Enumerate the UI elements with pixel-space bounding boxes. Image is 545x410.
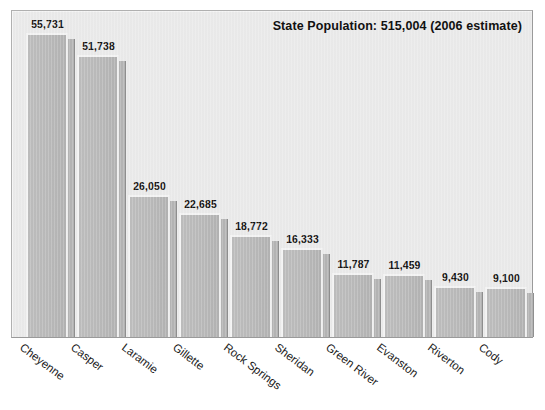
- x-axis-label-gillette: Gillette: [171, 341, 207, 372]
- x-axis-label-cheyenne: Cheyenne: [18, 341, 67, 382]
- bar-chart-screenshot: { "chart_data": { "type": "bar", "title"…: [0, 0, 545, 410]
- bar-value-label: 26,050: [124, 180, 175, 192]
- chart-title: State Population: 515,004 (2006 estimate…: [273, 19, 522, 33]
- bar[interactable]: [434, 286, 476, 337]
- bar[interactable]: [26, 33, 68, 337]
- bar-group: 9,100: [481, 265, 532, 337]
- bar[interactable]: [77, 55, 119, 337]
- x-axis-category-labels: CheyenneCasperLaramieGilletteRock Spring…: [11, 341, 533, 410]
- bar-group: 26,050: [124, 173, 175, 337]
- bar-value-label: 9,430: [430, 271, 481, 283]
- bar[interactable]: [383, 274, 425, 337]
- bar-group: 9,430: [430, 264, 481, 337]
- plot-area: 55,73151,73826,05022,68518,77216,33311,7…: [12, 11, 532, 337]
- bar-group: 18,772: [226, 213, 277, 337]
- x-axis-label-laramie: Laramie: [120, 341, 160, 376]
- bar-value-label: 51,738: [73, 40, 124, 52]
- bar[interactable]: [332, 273, 374, 337]
- bar-value-label: 9,100: [481, 272, 532, 284]
- bar[interactable]: [485, 287, 527, 337]
- x-axis-label-riverton: Riverton: [426, 341, 467, 376]
- x-axis-label-evanston: Evanston: [375, 341, 421, 379]
- bar[interactable]: [128, 195, 170, 337]
- bar-value-label: 55,731: [22, 18, 73, 30]
- x-axis-label-casper: Casper: [69, 341, 106, 373]
- x-axis-label-sheridan: Sheridan: [273, 341, 317, 378]
- bar-value-label: 22,685: [175, 198, 226, 210]
- bar-group: 11,459: [379, 252, 430, 337]
- x-axis-label-green-river: Green River: [324, 341, 381, 388]
- bar-value-label: 11,459: [379, 259, 430, 271]
- bar-group: 55,731: [22, 11, 73, 337]
- bar-value-label: 11,787: [328, 258, 379, 270]
- bar-group: 16,333: [277, 226, 328, 337]
- bar-value-label: 18,772: [226, 220, 277, 232]
- bar-value-label: 16,333: [277, 233, 328, 245]
- x-axis-label-cody: Cody: [477, 341, 506, 367]
- chart-plot-frame: State Population: 515,004 (2006 estimate…: [11, 10, 533, 338]
- bar-group: 51,738: [73, 33, 124, 337]
- bar-group: 11,787: [328, 251, 379, 337]
- bar[interactable]: [179, 213, 221, 337]
- bar-group: 22,685: [175, 191, 226, 337]
- bar[interactable]: [230, 235, 272, 337]
- bar[interactable]: [281, 248, 323, 337]
